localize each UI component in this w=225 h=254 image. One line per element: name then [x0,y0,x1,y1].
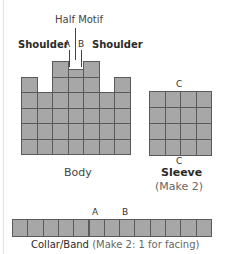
grid-cell [68,139,85,156]
grid-cell [180,123,197,140]
grid-cell [99,139,116,156]
grid-cell [52,123,69,140]
grid-cell [89,219,105,237]
motif-bracket-left [69,50,70,67]
grid-cell [196,107,213,124]
grid-cell [83,92,100,109]
grid-cell [52,92,69,109]
grid-cell [165,91,182,108]
body-label: Body [64,167,92,178]
grid-cell [21,92,38,109]
grid-cell [12,219,28,237]
half-motif-label: Half Motif [55,15,103,25]
grid-cell [52,139,69,156]
grid-cell [165,107,182,124]
grid-cell [68,77,85,94]
grid-cell [114,108,131,125]
grid-cell [37,123,54,140]
grid-cell [21,139,38,156]
grid-cell [196,219,212,237]
grid-cell [114,92,131,109]
grid-cell [99,92,116,109]
grid-cell [99,123,116,140]
grid-cell [21,108,38,125]
grid-cell [149,139,166,156]
grid-cell [150,219,166,237]
grid-cell [196,123,213,140]
shoulder-right-label: Shoulder [92,40,143,50]
grid-cell [149,123,166,140]
grid-cell [83,108,100,125]
marker-a-body: A [64,40,70,49]
grid-cell [52,108,69,125]
grid-cell [73,219,89,237]
shoulder-left-label: Shoulder [18,40,69,50]
collar-note: (Make 2: 1 for facing) [92,239,199,250]
half-motif-line [75,28,76,60]
marker-b-body: B [78,40,84,49]
grid-cell [165,139,182,156]
grid-cell [68,92,85,109]
grid-cell [37,139,54,156]
sleeve-label: Sleeve [161,167,202,178]
grid-cell [104,219,120,237]
grid-cell [83,77,100,94]
grid-cell [180,139,197,156]
grid-cell [114,77,131,94]
grid-cell [58,219,74,237]
grid-cell [165,123,182,140]
grid-cell [52,77,69,94]
grid-cell [52,61,69,78]
grid-cell [196,91,213,108]
collar-caption: Collar/Band (Make 2: 1 for facing) [31,240,199,250]
grid-cell [68,69,85,78]
grid-cell [21,123,38,140]
collar-marker-a: A [92,208,98,217]
grid-cell [149,107,166,124]
grid-cell [119,219,135,237]
grid-cell [43,219,59,237]
grid-cell [196,139,213,156]
grid-cell [68,108,85,125]
grid-cell [83,139,100,156]
grid-cell [149,91,166,108]
grid-cell [180,219,196,237]
sleeve-note: (Make 2) [155,181,203,192]
grid-cell [83,123,100,140]
grid-cell [37,92,54,109]
grid-cell [99,108,116,125]
grid-cell [134,219,150,237]
left-border-line [3,0,4,254]
collar-label: Collar/Band [31,239,89,250]
grid-cell [180,107,197,124]
grid-cell [165,219,181,237]
grid-cell [180,91,197,108]
grid-cell [27,219,43,237]
sleeve-marker-bottom: C [176,157,182,166]
grid-cell [37,108,54,125]
sleeve-marker-top: C [176,80,182,89]
grid-cell [114,139,131,156]
collar-marker-b: B [122,208,128,217]
grid-cell [83,61,100,78]
motif-bracket-right [81,50,82,67]
grid-cell [68,123,85,140]
grid-cell [114,123,131,140]
grid-cell [21,77,38,94]
